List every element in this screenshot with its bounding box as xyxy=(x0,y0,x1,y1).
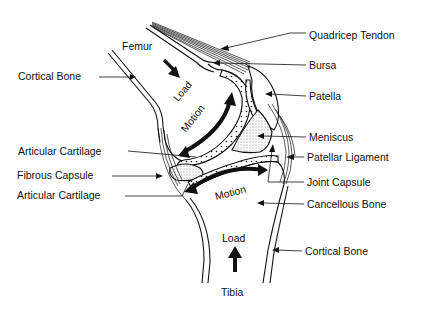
knee-joint-diagram: Femur Load Motion Motion Load Tibia Cort… xyxy=(0,0,421,316)
femur-anterior-cortex xyxy=(146,25,218,72)
svg-text:Patellar Ligament: Patellar Ligament xyxy=(307,151,389,163)
svg-text:Articular Cartilage: Articular Cartilage xyxy=(17,189,101,201)
load-label-bottom: Load xyxy=(222,232,246,244)
svg-text:Meniscus: Meniscus xyxy=(309,131,353,143)
callout-cancellous-bone: Cancellous Bone xyxy=(257,198,387,210)
svg-text:Cortical Bone: Cortical Bone xyxy=(305,245,368,257)
tibia-label: Tibia xyxy=(221,286,244,298)
svg-text:Cancellous Bone: Cancellous Bone xyxy=(307,198,387,210)
callout-fibrous-capsule: Fibrous Capsule xyxy=(17,169,163,181)
callout-articular-cartilage-bottom: Articular Cartilage xyxy=(17,184,188,201)
motion-label-top: Motion xyxy=(178,102,207,134)
svg-text:Joint Capsule: Joint Capsule xyxy=(307,176,371,188)
callout-quadricep-tendon: Quadricep Tendon xyxy=(220,29,395,51)
load-arrow-bottom xyxy=(228,246,242,272)
load-arrow-top xyxy=(164,60,180,78)
patellar-ligament xyxy=(268,104,295,184)
svg-text:Patella: Patella xyxy=(309,90,341,102)
motion-label-bottom: Motion xyxy=(214,183,248,202)
callout-patellar-ligament: Patellar Ligament xyxy=(286,151,389,163)
callout-cortical-bone-top: Cortical Bone xyxy=(18,70,136,82)
svg-text:Quadricep Tendon: Quadricep Tendon xyxy=(309,29,395,41)
svg-text:Cortical Bone: Cortical Bone xyxy=(18,70,81,82)
femur-shaft xyxy=(108,50,165,142)
femur-label: Femur xyxy=(122,40,153,52)
svg-text:Fibrous Capsule: Fibrous Capsule xyxy=(17,169,94,181)
svg-text:Bursa: Bursa xyxy=(309,59,337,71)
load-label-top: Load xyxy=(171,79,194,103)
callout-cortical-bone-bottom: Cortical Bone xyxy=(272,245,368,257)
svg-text:Articular Cartilage: Articular Cartilage xyxy=(18,145,102,157)
